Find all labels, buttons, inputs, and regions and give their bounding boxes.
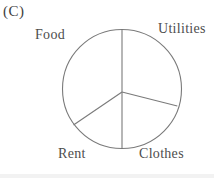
pie-chart-figure: (C) Food Utilities Rent Clothes [0, 0, 214, 179]
pie-label-utilities: Utilities [158, 21, 206, 37]
pie-label-food: Food [35, 27, 65, 43]
pie-divider-lower-left [74, 92, 123, 125]
pie-label-clothes: Clothes [139, 146, 184, 162]
pie-label-rent: Rent [58, 146, 86, 162]
scan-artifact-line [0, 174, 214, 178]
pie-divider-right [122, 92, 177, 106]
